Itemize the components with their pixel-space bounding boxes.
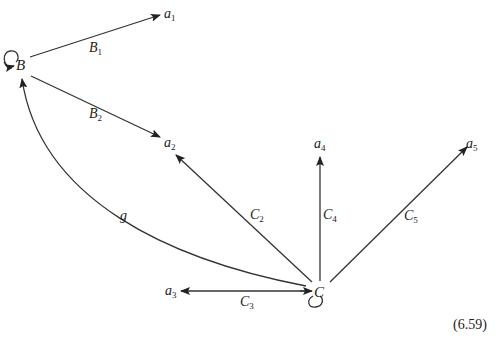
edge-label-g: g [120, 209, 127, 223]
node-a2: a2 [164, 136, 176, 152]
edge-label-C3: C3 [240, 295, 254, 311]
node-a1: a1 [164, 7, 176, 23]
node-C: C [314, 285, 324, 300]
edge-g [22, 79, 306, 286]
diagram-canvas [0, 0, 497, 343]
edge-label-C2: C2 [250, 208, 264, 224]
edge-label-C4: C4 [323, 208, 337, 224]
edge-C5 [330, 147, 467, 282]
equation-number: (6.59) [453, 318, 487, 332]
edge-label-B2: B2 [89, 107, 102, 123]
edge-label-B1: B1 [89, 41, 102, 57]
edge-C2 [176, 155, 312, 282]
edge-label-C5: C5 [404, 209, 418, 225]
node-a4: a4 [314, 137, 326, 153]
node-B: B [16, 58, 25, 73]
node-a5: a5 [466, 137, 478, 153]
node-a3: a3 [165, 284, 177, 300]
